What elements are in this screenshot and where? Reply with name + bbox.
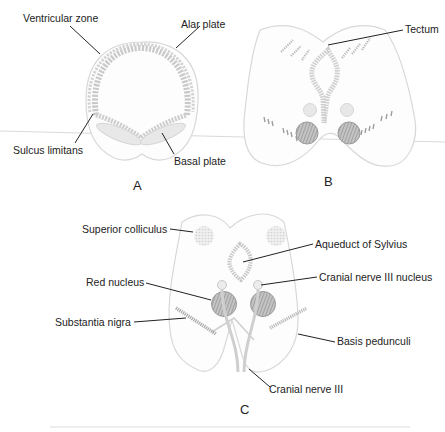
label-tectum: Tectum [405,23,439,35]
label-superior-colliculus: Superior colliculus [82,223,167,235]
midbrain-development-diagram: Ventricular zone Alar plate Sulcus limit… [0,0,445,432]
leader-basis-pedunculi [298,334,335,342]
label-cranial-nerve-iii-nucleus: Cranial nerve III nucleus [319,271,432,283]
label-basal-plate: Basal plate [174,155,226,167]
cn3-nucleus-b-right [341,104,354,117]
label-sulcus-limitans: Sulcus limitans [13,144,83,156]
label-ventricular-zone: Ventricular zone [23,12,98,24]
panel-b: Tectum B [244,23,439,189]
label-alar-plate: Alar plate [181,18,226,30]
red-nucleus-b-left [296,122,318,144]
red-nucleus-b-right [338,122,360,144]
label-red-nucleus: Red nucleus [86,276,144,288]
label-cranial-nerve-iii: Cranial nerve III [269,383,343,395]
cn3-nucleus-b-left [304,104,317,117]
panel-a: Ventricular zone Alar plate Sulcus limit… [13,12,226,193]
superior-colliculus-right [266,226,286,246]
label-substantia-nigra: Substantia nigra [55,316,131,328]
label-aqueduct-of-sylvius: Aqueduct of Sylvius [315,238,407,250]
leader-ventricular-zone [70,26,100,54]
panel-label-a: A [133,178,142,193]
label-basis-pedunculi: Basis pedunculi [337,335,411,347]
panel-label-c: C [240,402,249,417]
panel-c: Superior colliculus Aqueduct of Sylvius … [55,214,432,417]
cn3-nucleus-left [218,281,227,290]
superior-colliculus-left [194,226,214,246]
panel-label-b: B [324,174,333,189]
